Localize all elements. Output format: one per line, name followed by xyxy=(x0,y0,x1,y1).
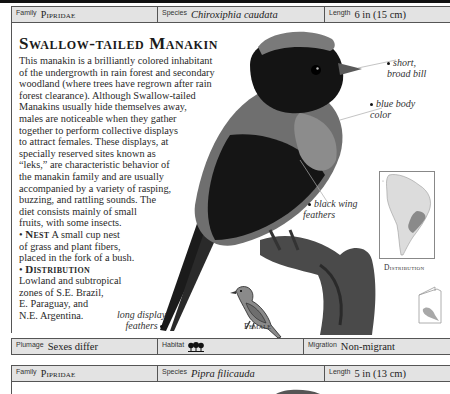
pointer-dot-icon xyxy=(370,103,373,106)
nest-line: A small cup nest xyxy=(51,229,119,240)
annotation-text: long display xyxy=(117,309,166,320)
habitat-label: Habitat xyxy=(162,341,184,348)
entry2-header-bar: Family Pipridae Species Pipra filicauda … xyxy=(11,365,450,382)
plumage-label: Plumage xyxy=(16,341,44,348)
species-label: Species xyxy=(162,9,187,16)
family-value: Pipridae xyxy=(41,9,76,20)
family-value: Pipridae xyxy=(41,368,76,379)
family-label: Family xyxy=(16,9,37,16)
forest-trees-icon xyxy=(188,342,204,352)
annotation-tail: long display feathers xyxy=(117,309,166,331)
pointer-dot-icon xyxy=(160,325,163,328)
species-value: Pipra filicauda xyxy=(191,368,255,379)
left-rule xyxy=(11,23,12,333)
length-value: 5 in (13 cm) xyxy=(354,368,406,379)
species-value: Chiroxiphia caudata xyxy=(191,9,278,20)
annotation-bill: short, broad bill xyxy=(387,57,426,79)
plumage-value: Sexes differ xyxy=(48,341,98,352)
annotation-wing: black wing feathers xyxy=(303,198,358,220)
species-field: Species Chiroxiphia caudata xyxy=(158,7,325,22)
species-label: Species xyxy=(162,368,187,375)
annotation-text: short, xyxy=(393,57,416,68)
annotation-text: blue body xyxy=(376,98,415,109)
length-field: Length 5 in (13 cm) xyxy=(325,366,450,381)
length-value: 6 in (15 cm) xyxy=(354,9,406,20)
next-bird-head-preview xyxy=(276,388,320,394)
migration-value: Non-migrant xyxy=(341,341,395,352)
family-label: Family xyxy=(16,368,37,375)
pointer-dot-icon xyxy=(387,62,390,65)
nest-heading: Nest xyxy=(25,228,49,240)
left-rule xyxy=(11,382,12,394)
map-caption: Distribution xyxy=(384,263,424,272)
annotation-text: broad bill xyxy=(387,68,426,79)
entry1-footer-bar: Plumage Sexes differ Habitat Migration N… xyxy=(11,338,450,355)
family-field: Family Pipridae xyxy=(12,7,158,22)
entry1-header-bar: Family Pipridae Species Chiroxiphia caud… xyxy=(11,6,450,23)
annotation-text: color xyxy=(370,109,415,120)
annotation-text: feathers xyxy=(303,209,358,220)
length-label: Length xyxy=(329,368,350,375)
top-rule xyxy=(0,0,450,3)
pointer-dot-icon xyxy=(308,203,311,206)
female-caption: Female xyxy=(244,321,271,331)
annotation-body-color: blue body color xyxy=(370,98,415,120)
distribution-map xyxy=(379,171,435,259)
female-bird-illustration xyxy=(226,283,286,343)
distribution-heading: Distribution xyxy=(25,263,90,275)
family-field: Family Pipridae xyxy=(12,366,158,381)
habitat-field: Habitat xyxy=(158,339,304,354)
annotation-text: feathers xyxy=(125,320,157,331)
length-field: Length 6 in (15 cm) xyxy=(325,7,450,22)
annotation-text: black wing xyxy=(314,198,358,209)
species-field: Species Pipra filicauda xyxy=(158,366,325,381)
length-label: Length xyxy=(329,9,350,16)
book-reference-icon xyxy=(417,285,447,325)
plumage-field: Plumage Sexes differ xyxy=(12,339,158,354)
migration-field: Migration Non-migrant xyxy=(304,339,450,354)
migration-label: Migration xyxy=(308,341,337,348)
